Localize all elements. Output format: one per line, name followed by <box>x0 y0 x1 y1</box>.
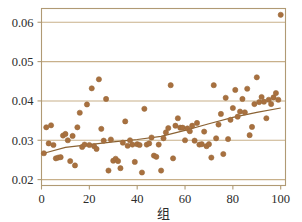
scatter-point <box>249 124 254 129</box>
scatter-point <box>230 105 235 110</box>
scatter-point <box>137 142 142 147</box>
scatter-point <box>132 159 137 164</box>
scatter-point <box>209 155 214 160</box>
xtick-label-5: 100 <box>271 192 290 206</box>
scatter-point <box>58 155 63 160</box>
x-axis-title-label: 组 <box>157 206 170 221</box>
scatter-point <box>156 142 161 147</box>
frame-rect <box>42 9 286 186</box>
scatter-point <box>84 102 89 107</box>
ytick-label-3: 0.05 <box>12 55 34 69</box>
gridlines-group <box>42 22 286 179</box>
scatter-point <box>139 170 144 175</box>
scatter-point <box>278 12 283 17</box>
scatter-point <box>123 119 128 124</box>
scatter-point <box>82 142 87 147</box>
scatter-point <box>211 83 216 88</box>
scatter-point <box>254 75 259 80</box>
scatter-point <box>70 133 75 138</box>
scatter-point <box>216 122 221 127</box>
scatter-point <box>206 142 211 147</box>
scatter-point <box>94 146 99 151</box>
scatter-point <box>41 151 46 156</box>
scatter-point <box>261 99 266 104</box>
scatter-point <box>115 159 120 164</box>
plot-frame <box>42 9 286 186</box>
scatter-point <box>252 101 257 106</box>
scatter-point <box>259 94 264 99</box>
scatter-point <box>187 129 192 134</box>
scatter-point <box>118 166 123 171</box>
scatter-point <box>170 156 175 161</box>
scatter-point <box>228 117 233 122</box>
xtick-label-3: 60 <box>179 192 192 206</box>
scatter-point <box>214 136 219 141</box>
scatter-point <box>190 123 195 128</box>
xtick-label-2: 40 <box>131 192 144 206</box>
scatter-point <box>46 141 51 146</box>
scatter-point <box>75 125 80 130</box>
scatter-point <box>68 159 73 164</box>
scatter-point <box>120 140 125 145</box>
scatter-point <box>247 133 252 138</box>
scatter-point <box>48 123 53 128</box>
scatter-point <box>101 138 106 143</box>
plot-area-svg: 0204060801000.020.030.040.050.06组 <box>0 0 302 222</box>
scatter-point <box>182 138 187 143</box>
scatter-point <box>87 142 92 147</box>
scatter-point <box>240 96 245 101</box>
scatter-point <box>147 141 152 146</box>
scatter-point <box>235 114 240 119</box>
scatter-point <box>233 87 238 92</box>
y-axis: 0.020.030.040.050.06 <box>12 16 42 187</box>
xtick-label-1: 20 <box>83 192 96 206</box>
ytick-label-4: 0.06 <box>12 16 34 30</box>
scatter-point <box>218 111 223 116</box>
scatter-point <box>225 136 230 141</box>
scatter-point <box>180 125 185 130</box>
scatter-point <box>264 116 269 121</box>
scatter-point <box>106 168 111 173</box>
scatter-point <box>130 142 135 147</box>
scatter-point <box>276 97 281 102</box>
scatter-point <box>269 101 274 106</box>
scatter-point <box>273 90 278 95</box>
scatter-point <box>257 100 262 105</box>
scatter-point <box>103 96 108 101</box>
scatter-point <box>159 168 164 173</box>
ytick-label-2: 0.04 <box>12 94 35 108</box>
scatter-point <box>166 125 171 130</box>
scatter-point <box>125 143 130 148</box>
scatter-point <box>173 123 178 128</box>
scatter-point <box>77 110 82 115</box>
scatter-point <box>99 126 104 131</box>
scatter-point <box>96 77 101 82</box>
scatter-point <box>161 136 166 141</box>
scatter-point <box>192 138 197 143</box>
scatter-point <box>199 142 204 147</box>
scatter-point <box>65 138 70 143</box>
scatter-point <box>89 86 94 91</box>
scatter-point <box>194 120 199 125</box>
scatter-chart: 0204060801000.020.030.040.050.06组 <box>0 0 302 222</box>
x-axis-title: 组 <box>157 206 170 221</box>
xtick-label-0: 0 <box>38 192 44 206</box>
ytick-label-0: 0.02 <box>12 173 34 187</box>
scatter-point <box>44 125 49 130</box>
scatter-point <box>142 106 147 111</box>
scatter-point <box>242 110 247 115</box>
scatter-point <box>63 131 68 136</box>
x-axis: 020406080100 <box>38 186 290 206</box>
xtick-label-4: 80 <box>227 192 240 206</box>
ytick-label-1: 0.03 <box>12 134 34 148</box>
scatter-point <box>245 86 250 91</box>
scatter-point <box>108 137 113 142</box>
scatter-point <box>202 129 207 134</box>
scatter-point <box>221 151 226 156</box>
scatter-point <box>223 95 228 100</box>
scatter-point <box>175 116 180 121</box>
scatter-point <box>154 154 159 159</box>
scatter-point <box>168 83 173 88</box>
scatter-points-group <box>41 12 283 175</box>
scatter-point <box>237 109 242 114</box>
